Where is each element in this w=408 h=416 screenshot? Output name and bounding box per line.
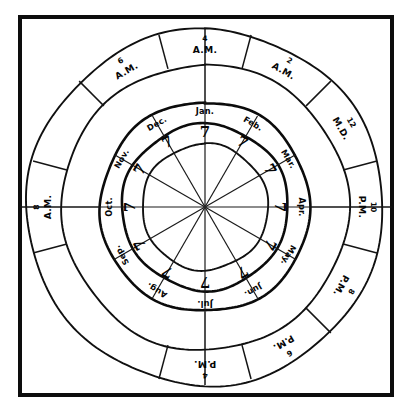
diagram-canvas: Jan.Feb.Mar.Apr.May.Jun.Jul.Aug.Sep.Oct.… xyxy=(0,0,408,416)
hour-label-10-pm: 10P.M. xyxy=(357,196,378,218)
hour-period-0: A.M. xyxy=(193,44,218,55)
month-value-jul: 7 xyxy=(200,273,210,291)
circular-diagram: Jan.Feb.Mar.Apr.May.Jun.Jul.Aug.Sep.Oct.… xyxy=(0,0,408,416)
month-value-oct: 7 xyxy=(121,202,139,212)
spoke-hour-div-4 xyxy=(306,308,331,333)
hour-label-8-am: 8A.M. xyxy=(32,195,53,220)
spoke-hour-div-10 xyxy=(159,35,168,69)
month-value-sep: 7 xyxy=(130,235,151,253)
spoke-hour-div-7 xyxy=(33,244,67,253)
hour-label-4-pm: 4P.M. xyxy=(194,359,216,380)
month-label-apr: Apr. xyxy=(297,198,307,217)
hour-period-6: P.M. xyxy=(194,359,216,370)
month-value-jan: 7 xyxy=(200,123,210,141)
month-label-oct: Oct. xyxy=(104,197,114,217)
spoke-hour-div-1 xyxy=(306,81,331,106)
spoke-hour-div-8 xyxy=(33,161,67,170)
month-value-jun: 7 xyxy=(233,262,251,283)
hour-period-7: A.M. xyxy=(42,195,53,220)
month-value-feb: 7 xyxy=(233,132,251,153)
month-label-sep: Sep. xyxy=(112,244,131,267)
hour-number-1: 2 xyxy=(285,55,294,65)
hour-period-8: A.M. xyxy=(113,60,140,82)
month-value-mar: 7 xyxy=(260,160,281,178)
spoke-hour-div-6 xyxy=(159,345,168,379)
month-value-dec: 7 xyxy=(158,132,176,153)
hour-period-5: P.M. xyxy=(271,333,296,354)
spoke-hour-div-3 xyxy=(343,244,377,253)
spoke-hour-div-2 xyxy=(343,161,377,170)
month-value-may: 7 xyxy=(260,235,281,253)
hour-label-2-am: 2A.M. xyxy=(270,51,302,82)
month-label-jan: Jan. xyxy=(195,106,214,116)
spoke-hour-div-9 xyxy=(79,81,104,106)
spoke-inner-2 xyxy=(205,155,295,207)
hour-number-7: 8 xyxy=(32,204,41,209)
hour-number-3: 10 xyxy=(369,202,378,213)
month-label-may: May. xyxy=(279,243,299,267)
month-label-mar: Mar. xyxy=(279,147,298,170)
hour-number-8: 6 xyxy=(116,55,125,65)
hour-number-6: 4 xyxy=(202,371,207,380)
month-value-nov: 7 xyxy=(130,160,151,178)
month-label-nov: Nov. xyxy=(112,147,131,170)
month-label-jul: Jul. xyxy=(197,299,214,309)
month-value-apr: 7 xyxy=(271,202,289,212)
hour-number-0: 4 xyxy=(202,34,207,43)
hour-period-1: A.M. xyxy=(270,60,297,82)
spoke-hour-div-0 xyxy=(242,35,251,69)
spoke-hour-div-5 xyxy=(242,345,251,379)
hour-label-12-md: 12M.D. xyxy=(330,109,361,141)
hour-number-5: 6 xyxy=(285,348,294,358)
hour-period-3: P.M. xyxy=(357,196,368,218)
hour-period-4: P.M. xyxy=(331,273,352,298)
hour-number-4: 8 xyxy=(346,287,356,296)
month-value-aug: 7 xyxy=(158,262,176,283)
radial-spokes xyxy=(20,29,392,385)
hour-label-4-am: 4A.M. xyxy=(193,34,218,55)
